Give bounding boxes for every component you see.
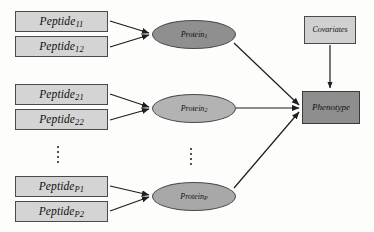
diagram-canvas: Peptide11 Peptide12 Peptide21 Peptide22 … <box>0 0 374 232</box>
peptide-label-p1: PeptideP1 <box>39 181 84 193</box>
protein-label-1: Protein1 <box>181 31 208 39</box>
covariates-box[interactable]: Covariates <box>304 16 356 44</box>
peptide-box-p2[interactable]: PeptideP2 <box>15 201 108 222</box>
edge-peptide-12-to-protein-1 <box>110 35 149 47</box>
peptide-box-12[interactable]: Peptide12 <box>15 36 108 57</box>
peptide-label-11: Peptide11 <box>40 16 84 28</box>
peptide-label-21: Peptide21 <box>39 89 84 101</box>
protein-label-p: ProteinP <box>180 193 207 201</box>
protein-ellipse-1[interactable]: Protein1 <box>152 20 236 49</box>
peptide-column-ellipsis-icon <box>57 146 59 163</box>
protein-ellipse-p[interactable]: ProteinP <box>152 182 236 211</box>
edge-peptide-P1-to-protein-P <box>110 186 149 195</box>
phenotype-label: Phenotype <box>312 103 350 112</box>
edge-peptide-P2-to-protein-P <box>110 197 149 211</box>
protein-label-2: Protein2 <box>181 105 208 113</box>
edge-protein-1-to-phenotype <box>234 43 299 105</box>
edge-peptide-21-to-protein-2 <box>110 94 149 107</box>
peptide-box-22[interactable]: Peptide22 <box>15 109 108 130</box>
protein-column-ellipsis-icon <box>190 148 192 165</box>
edge-peptide-22-to-protein-2 <box>110 109 149 120</box>
peptide-label-22: Peptide22 <box>39 114 84 126</box>
protein-ellipse-2[interactable]: Protein2 <box>152 94 236 123</box>
edge-peptide-11-to-protein-1 <box>110 21 149 33</box>
peptide-box-21[interactable]: Peptide21 <box>15 84 108 105</box>
peptide-box-11[interactable]: Peptide11 <box>15 11 108 32</box>
peptide-box-p1[interactable]: PeptideP1 <box>15 176 108 197</box>
covariates-label: Covariates <box>312 26 347 34</box>
phenotype-box[interactable]: Phenotype <box>302 91 360 124</box>
edge-protein-P-to-phenotype <box>234 112 299 188</box>
peptide-label-p2: PeptideP2 <box>39 206 84 218</box>
peptide-label-12: Peptide12 <box>39 41 84 53</box>
